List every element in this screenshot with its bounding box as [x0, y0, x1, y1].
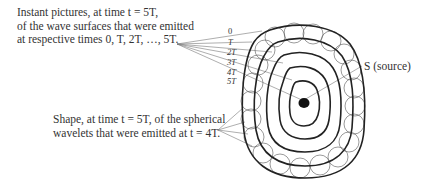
wavefront-figure: 0 T 2T 3T 4T 5T S (source) [0, 0, 424, 186]
source-dot [299, 98, 310, 108]
bottom-leader-lines [218, 108, 252, 146]
surface-label-2T: 2T [227, 47, 237, 57]
surface-label-T: T [228, 37, 234, 47]
huygens-wavefront-diagram: Instant pictures, at time t = 5T, of the… [0, 0, 424, 186]
top-leader-lines [177, 31, 302, 100]
surface-label-3T: 3T [226, 57, 237, 67]
source-label: S (source) [364, 60, 411, 73]
surface-label-0: 0 [228, 26, 232, 36]
surface-label-5T: 5T [227, 76, 237, 86]
